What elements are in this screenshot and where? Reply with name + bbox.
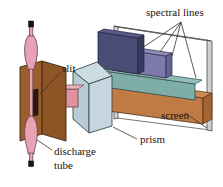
leader-prism	[113, 127, 137, 139]
label-slit: slit	[62, 62, 75, 74]
discharge-tube-upper-stem	[29, 26, 32, 36]
spectral-band-navy-end	[138, 35, 144, 74]
label-spectral-lines: spectral lines	[146, 6, 204, 18]
label-screen: screen	[161, 109, 190, 121]
prism	[73, 62, 112, 133]
prism-front-right-face	[89, 76, 112, 133]
spectral-band-navy	[98, 29, 144, 74]
slit-aperture	[33, 89, 38, 116]
label-discharge-tube-line1: discharge	[54, 145, 96, 157]
diagram-canvas: spectral lines slit discharge tube prism…	[0, 0, 223, 187]
discharge-tube-upper-electrode	[29, 21, 34, 27]
label-prism: prism	[140, 133, 166, 145]
discharge-tube-lower-stem	[29, 153, 32, 162]
spectral-band-violet-end	[166, 53, 172, 78]
label-discharge-tube-line2: tube	[54, 159, 73, 171]
spectral-band-navy-front	[98, 32, 138, 74]
spectroscope-diagram: spectral lines slit discharge tube prism…	[0, 0, 223, 187]
discharge-tube-upper-bulb	[25, 34, 38, 70]
discharge-tube-capillary	[29, 69, 32, 117]
spectral-band-orange-end	[203, 93, 212, 124]
discharge-tube-lower-bulb	[25, 116, 38, 154]
discharge-tube-lower-electrode	[29, 161, 34, 167]
leader-discharge-tube	[37, 140, 52, 150]
